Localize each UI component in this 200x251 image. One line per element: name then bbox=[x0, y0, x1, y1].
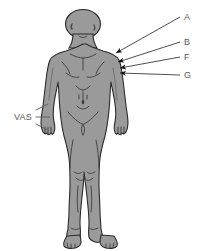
human-body-diagram bbox=[0, 0, 200, 251]
label-a: A bbox=[184, 13, 190, 22]
leader-line-A bbox=[116, 17, 180, 53]
leader-arrows-group bbox=[116, 17, 180, 75]
label-g: G bbox=[184, 71, 191, 80]
right-foot-shape bbox=[100, 235, 117, 248]
label-vas: VAS bbox=[14, 113, 32, 122]
leader-line-G bbox=[120, 73, 180, 75]
label-b: B bbox=[184, 38, 190, 47]
torso-and-limbs-shape bbox=[41, 44, 128, 242]
label-f: F bbox=[184, 53, 190, 62]
anatomy-figure-container: A B F G VAS bbox=[0, 0, 200, 251]
left-foot-shape bbox=[64, 235, 81, 248]
